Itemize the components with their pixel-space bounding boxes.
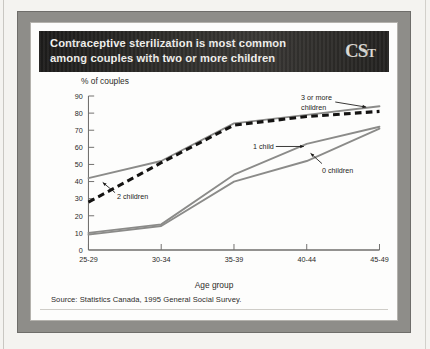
figure-title: Contraceptive sterilization is most comm… <box>50 36 333 66</box>
series-line <box>88 129 379 235</box>
source-divider <box>40 309 388 310</box>
y-tick-label: 70 <box>75 126 83 135</box>
chart-plot-area: % of couples 010203040506070809025-2930-… <box>39 76 389 288</box>
x-tick-label: 45-49 <box>370 255 388 264</box>
series-line <box>88 111 379 202</box>
y-tick-label: 50 <box>75 160 83 169</box>
annotation-leader-line <box>335 102 366 107</box>
source-note: Source: Statistics Canada, 1995 General … <box>51 295 241 304</box>
y-tick-label: 60 <box>75 143 83 152</box>
series-annotation-label: 2 children <box>117 192 148 201</box>
figure-title-line-1: Contraceptive sterilization is most comm… <box>50 36 333 51</box>
y-tick-label: 30 <box>75 194 83 203</box>
x-tick-label: 35-39 <box>225 255 243 264</box>
series-annotation-label: 3 or more <box>301 93 332 102</box>
x-tick-label: 40-44 <box>297 255 315 264</box>
cst-logo-icon: CST <box>337 35 383 67</box>
figure-title-banner: Contraceptive sterilization is most comm… <box>39 31 389 72</box>
line-chart: 010203040506070809025-2930-3435-3940-444… <box>39 76 389 288</box>
series-annotation-label: 1 child <box>253 141 274 150</box>
x-axis-title: Age group <box>39 280 389 290</box>
y-tick-label: 20 <box>75 211 83 220</box>
page-left-rule <box>3 0 4 349</box>
y-tick-label: 10 <box>75 229 83 238</box>
figure-frame: Contraceptive sterilization is most comm… <box>18 12 410 332</box>
scanned-page: Contraceptive sterilization is most comm… <box>0 0 430 349</box>
y-tick-label: 90 <box>75 92 83 101</box>
series-annotation-label: 0 children <box>322 165 353 174</box>
x-tick-label: 25-29 <box>79 255 97 264</box>
y-tick-label: 0 <box>79 246 83 255</box>
y-tick-label: 40 <box>75 177 83 186</box>
figure-title-line-2: among couples with two or more children <box>50 51 333 66</box>
figure-panel: Contraceptive sterilization is most comm… <box>30 22 398 321</box>
page-right-rule <box>425 0 426 349</box>
y-tick-label: 80 <box>75 109 83 118</box>
x-tick-label: 30-34 <box>152 255 170 264</box>
series-annotation-label: children <box>301 102 326 111</box>
